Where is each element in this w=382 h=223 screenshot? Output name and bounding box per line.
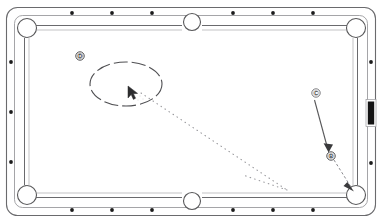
diamond-bottom-5[interactable] bbox=[271, 208, 275, 212]
diamond-left-2[interactable] bbox=[9, 110, 13, 114]
pocket-top-right[interactable] bbox=[347, 19, 366, 38]
diamond-top-3[interactable] bbox=[150, 11, 154, 15]
pocket-bottom-center[interactable] bbox=[184, 193, 201, 210]
diamond-bottom-4[interactable] bbox=[231, 208, 235, 212]
pocket-top-left[interactable] bbox=[18, 19, 37, 38]
selected-rail-marker-fill bbox=[368, 102, 374, 125]
diagram-canvas: D C B bbox=[0, 0, 382, 223]
diamond-bottom-2[interactable] bbox=[110, 208, 114, 212]
diamond-top-1[interactable] bbox=[70, 11, 74, 15]
diamond-top-4[interactable] bbox=[231, 11, 235, 15]
cursor-dust-1 bbox=[140, 96, 141, 97]
diamond-bottom-6[interactable] bbox=[311, 208, 315, 212]
diamond-top-5[interactable] bbox=[271, 11, 275, 15]
cursor-dust-3 bbox=[138, 100, 139, 101]
selected-rail-marker[interactable] bbox=[366, 100, 376, 127]
ball-d[interactable]: D bbox=[76, 52, 84, 60]
diamond-bottom-1[interactable] bbox=[70, 208, 74, 212]
pool-table-diagram: D C B bbox=[0, 0, 382, 223]
ball-d-label: D bbox=[78, 53, 82, 59]
ball-c-label: C bbox=[314, 90, 318, 96]
diamond-top-6[interactable] bbox=[311, 11, 315, 15]
diamond-bottom-3[interactable] bbox=[150, 208, 154, 212]
diamond-right-1[interactable] bbox=[369, 60, 373, 64]
diamond-left-1[interactable] bbox=[9, 60, 13, 64]
table-rail-inner-edge bbox=[15, 16, 368, 208]
diamond-top-2[interactable] bbox=[110, 11, 114, 15]
ball-b[interactable]: B bbox=[327, 152, 335, 160]
pocket-top-center[interactable] bbox=[184, 14, 201, 31]
cursor-dust-2 bbox=[143, 99, 144, 100]
ball-b-label: B bbox=[329, 153, 333, 159]
table-frame bbox=[7, 8, 376, 216]
diamond-right-3[interactable] bbox=[369, 161, 373, 165]
ball-c[interactable]: C bbox=[312, 89, 320, 97]
pocket-bottom-left[interactable] bbox=[18, 186, 37, 205]
diamond-left-3[interactable] bbox=[9, 160, 13, 164]
